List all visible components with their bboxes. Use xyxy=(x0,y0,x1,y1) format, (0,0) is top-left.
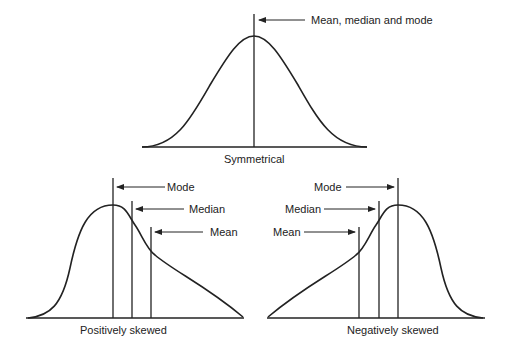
positive-skew-curve xyxy=(26,178,244,318)
symmetrical-curve xyxy=(142,14,367,147)
label-neg-mode: Mode xyxy=(314,181,342,193)
caption-positive: Positively skewed xyxy=(80,324,167,336)
label-pos-median: Median xyxy=(189,203,225,215)
label-neg-mean: Mean xyxy=(273,226,301,238)
caption-negative: Negatively skewed xyxy=(347,324,439,336)
distribution-skew-diagram: Mean, median and mode Symmetrical Mode M… xyxy=(0,0,508,351)
negative-skew-curve xyxy=(267,178,485,318)
label-pos-mode: Mode xyxy=(167,181,195,193)
label-mean-median-mode: Mean, median and mode xyxy=(311,14,433,26)
diagram-canvas xyxy=(0,0,508,351)
label-neg-median: Median xyxy=(285,203,321,215)
label-pos-mean: Mean xyxy=(210,226,238,238)
caption-symmetrical: Symmetrical xyxy=(224,153,285,165)
